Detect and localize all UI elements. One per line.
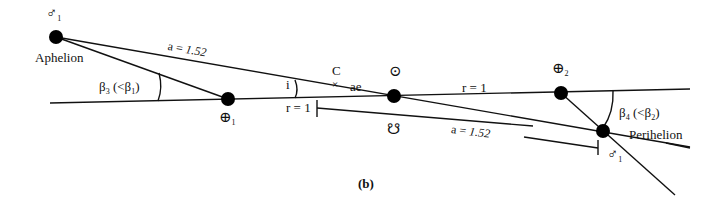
inclination-label: i [286, 78, 290, 91]
beta3-arc [158, 73, 161, 101]
earth2-label: ⊕2 [552, 61, 569, 78]
dimension-line-a-right [524, 137, 598, 148]
earth1-label: ⊕1 [219, 110, 236, 127]
mars-orbit-line [56, 37, 690, 147]
perihelion-label: Perihelion [629, 128, 682, 141]
mars-perihelion-dot [596, 124, 610, 138]
r-left-label: r = 1 [286, 101, 311, 114]
r-right-label: r = 1 [462, 81, 487, 94]
orbit-tail-segment [666, 143, 690, 148]
center-mark: × [332, 79, 338, 90]
earth2-dot [554, 86, 568, 100]
beta4-label: β4 (<β2) [619, 106, 660, 122]
mars-perihelion-label: ♂1 [607, 147, 622, 164]
center-c-label: C [332, 64, 341, 77]
earth1-dot [221, 92, 235, 106]
beta4-arc [603, 91, 613, 128]
orbit-diagram [0, 0, 727, 205]
beta3-label: β3 (<β1) [99, 80, 140, 96]
ae-label: ae [350, 80, 362, 93]
mars-aphelion-label: ♂1 [46, 6, 61, 23]
mars-aphelion-dot [49, 30, 63, 44]
descending-node-symbol: ☋ [387, 122, 400, 137]
inclination-arc [295, 80, 297, 98]
figure-caption: (b) [358, 177, 374, 190]
sun-dot [387, 89, 401, 103]
aphelion-label: Aphelion [35, 51, 83, 64]
sun-symbol: ⊙ [389, 64, 402, 79]
dimension-line-a [317, 108, 533, 126]
